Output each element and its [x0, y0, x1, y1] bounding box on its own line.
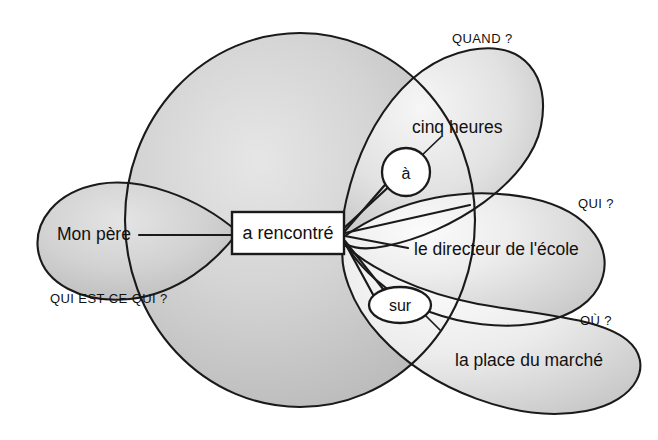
- phrase-object: le directeur de l'école: [414, 239, 579, 259]
- preposition-label-a: à: [402, 165, 411, 182]
- phrase-time: cinq heures: [412, 117, 503, 137]
- question-label-qui-est-ce-qui: QUI EST-CE QUI ?: [50, 291, 168, 306]
- question-label-ou: OÙ ?: [580, 313, 612, 328]
- question-label-qui: QUI ?: [578, 196, 614, 211]
- phrase-subject: Mon père: [57, 224, 131, 244]
- question-label-quand: QUAND ?: [452, 31, 513, 46]
- verb-label: a rencontré: [242, 223, 333, 243]
- valency-diagram-canvas: a rencontré à sur Mon père cinq heures l…: [0, 0, 658, 440]
- preposition-label-sur: sur: [389, 297, 412, 314]
- diagram-svg: a rencontré à sur Mon père cinq heures l…: [0, 0, 658, 440]
- phrase-place: la place du marché: [455, 350, 603, 370]
